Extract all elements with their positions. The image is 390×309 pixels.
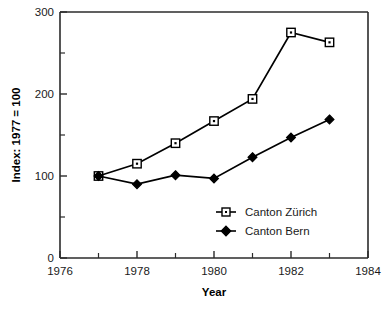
data-point-center-dot-icon [251, 98, 253, 100]
data-point-center-dot-icon [328, 41, 330, 43]
y-axis-ticks [60, 12, 67, 258]
legend-item-canton-zurich: Canton Zürich [216, 206, 317, 218]
series-canton-bern [94, 115, 334, 189]
filled-diamond-icon [325, 115, 334, 124]
y-axis-tick-labels: 0 100 200 300 [35, 6, 54, 264]
filled-diamond-icon [287, 133, 296, 142]
chart-legend: Canton Zürich Canton Bern [216, 206, 317, 237]
legend-label-bern: Canton Bern [245, 225, 310, 237]
line-chart: 0 100 200 300 1976 1978 1980 1982 1984 Y… [0, 0, 390, 309]
x-axis-ticks [60, 251, 368, 258]
filled-diamond-icon [248, 153, 257, 162]
chart-canvas: 0 100 200 300 1976 1978 1980 1982 1984 Y… [0, 0, 390, 309]
legend-item-canton-bern: Canton Bern [216, 225, 310, 237]
axis-frame [60, 12, 368, 258]
x-tick-label-1978: 1978 [124, 265, 150, 277]
x-axis-tick-labels: 1976 1978 1980 1982 1984 [47, 265, 381, 277]
filled-diamond-icon [210, 174, 219, 183]
data-point-center-dot-icon [213, 120, 215, 122]
x-axis-title: Year [202, 286, 227, 298]
y-tick-label-100: 100 [35, 170, 54, 182]
y-tick-label-200: 200 [35, 88, 54, 100]
open-square-center-dot-icon [225, 211, 227, 213]
x-tick-label-1984: 1984 [355, 265, 381, 277]
series-line-canton-z-rich [99, 33, 330, 177]
filled-diamond-icon [221, 226, 231, 236]
legend-label-zurich: Canton Zürich [245, 206, 317, 218]
x-tick-label-1980: 1980 [201, 265, 227, 277]
y-tick-label-0: 0 [48, 252, 54, 264]
data-series-layer [94, 28, 334, 188]
filled-diamond-icon [133, 180, 142, 189]
series-canton-z-rich [94, 28, 333, 180]
y-tick-label-300: 300 [35, 6, 54, 18]
y-axis-title: Index: 1977 = 100 [10, 88, 22, 183]
filled-diamond-icon [171, 171, 180, 180]
data-point-center-dot-icon [136, 163, 138, 165]
data-point-center-dot-icon [174, 142, 176, 144]
data-point-center-dot-icon [290, 31, 292, 33]
x-tick-label-1982: 1982 [278, 265, 304, 277]
x-tick-label-1976: 1976 [47, 265, 73, 277]
